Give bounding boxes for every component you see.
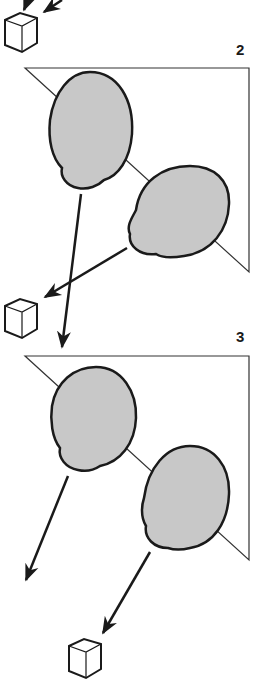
panel-label-3: 3 — [236, 329, 244, 344]
cell-icon — [51, 367, 136, 471]
cell-icon — [50, 72, 133, 189]
cube-icon — [69, 639, 101, 678]
arrow-icon — [26, 476, 68, 580]
panel-2 — [25, 68, 249, 347]
panel-label-2: 2 — [236, 42, 244, 57]
diagram-canvas — [0, 0, 255, 685]
cell-icon — [142, 446, 229, 550]
figure: 2 3 — [0, 0, 255, 685]
arrow-icon — [62, 194, 81, 347]
cube-icon — [5, 299, 37, 338]
cell-icon — [129, 166, 229, 257]
top-arrows — [24, 0, 62, 12]
arrow-icon — [45, 248, 127, 297]
cube-icon — [5, 13, 37, 52]
panel-3 — [25, 356, 249, 633]
arrow-icon — [103, 552, 150, 633]
